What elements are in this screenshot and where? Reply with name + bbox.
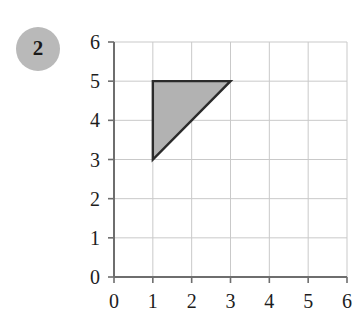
y-tick-label: 6 (76, 32, 100, 52)
figure-page: 2 01234560123456 (0, 0, 362, 331)
axis-ticks (108, 42, 347, 283)
x-tick-label: 5 (296, 291, 320, 311)
x-tick-label: 6 (335, 291, 359, 311)
coordinate-grid-chart (0, 0, 362, 331)
x-tick-label: 0 (102, 291, 126, 311)
x-tick-label: 1 (141, 291, 165, 311)
y-tick-label: 5 (76, 71, 100, 91)
x-tick-label: 3 (219, 291, 243, 311)
y-tick-label: 0 (76, 267, 100, 287)
y-tick-label: 1 (76, 228, 100, 248)
x-tick-label: 4 (257, 291, 281, 311)
y-tick-label: 4 (76, 110, 100, 130)
y-tick-label: 2 (76, 189, 100, 209)
x-tick-label: 2 (180, 291, 204, 311)
y-tick-label: 3 (76, 150, 100, 170)
grid-lines (114, 42, 347, 277)
